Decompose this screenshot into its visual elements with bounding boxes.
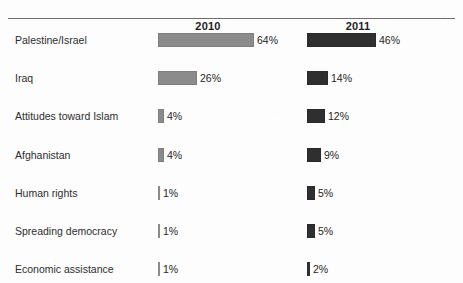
bar-2011 (307, 186, 315, 200)
bar-value-label-2010: 4% (167, 148, 182, 162)
chart-row: Iraq26%14% (0, 69, 463, 89)
bar-2010 (158, 186, 160, 200)
bar-value-label-2011: 9% (324, 148, 339, 162)
bar-2011 (307, 148, 321, 162)
chart-row: Economic assistance1%2% (0, 260, 463, 280)
bar-value-label-2011: 46% (379, 33, 400, 47)
bar-value-label-2011: 12% (328, 109, 349, 123)
bar-2010 (158, 148, 164, 162)
row-label: Attitudes toward Islam (15, 109, 118, 123)
bar-2010 (158, 224, 160, 238)
bar-value-label-2011: 2% (313, 262, 328, 276)
bar-2011 (307, 109, 325, 123)
bar-value-label-2010: 4% (167, 109, 182, 123)
bar-2011 (307, 262, 310, 276)
bar-2010 (158, 33, 254, 47)
bar-chart: 2010 2011 Palestine/Israel64%46%Iraq26%1… (0, 0, 463, 283)
bar-value-label-2011: 5% (318, 224, 333, 238)
bar-value-label-2011: 14% (331, 71, 352, 85)
chart-row: Spreading democracy1%5% (0, 222, 463, 242)
bar-value-label-2010: 1% (163, 224, 178, 238)
chart-row: Human rights1%5% (0, 184, 463, 204)
chart-row: Attitudes toward Islam4%12% (0, 107, 463, 127)
bar-2010 (158, 262, 160, 276)
row-label: Afghanistan (15, 148, 70, 162)
bar-2010 (158, 71, 197, 85)
bar-2011 (307, 224, 315, 238)
chart-row: Afghanistan4%9% (0, 146, 463, 166)
row-label: Iraq (15, 71, 33, 85)
bar-2011 (307, 33, 376, 47)
chart-row: Palestine/Israel64%46% (0, 31, 463, 51)
row-label: Economic assistance (15, 262, 114, 276)
chart-rows: Palestine/Israel64%46%Iraq26%14%Attitude… (0, 0, 463, 283)
bar-2011 (307, 71, 328, 85)
bar-value-label-2011: 5% (318, 186, 333, 200)
bar-value-label-2010: 1% (163, 262, 178, 276)
bar-value-label-2010: 1% (163, 186, 178, 200)
bar-value-label-2010: 26% (200, 71, 221, 85)
bar-value-label-2010: 64% (257, 33, 278, 47)
row-label: Palestine/Israel (15, 33, 87, 47)
bar-2010 (158, 109, 164, 123)
row-label: Spreading democracy (15, 224, 117, 238)
row-label: Human rights (15, 186, 77, 200)
